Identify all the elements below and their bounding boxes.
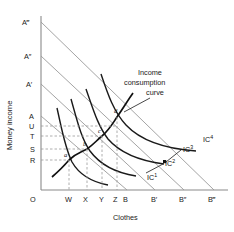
point-label-c: c	[98, 127, 101, 134]
y-axis-title: Money income	[5, 101, 14, 150]
ic4-label-sup: 4	[210, 134, 213, 140]
ic3-label-base: IC	[183, 145, 190, 154]
ic1-label: IC1	[147, 172, 157, 182]
x-tick-y: Y	[99, 195, 104, 204]
ic4-label: IC4	[203, 134, 213, 144]
x-tick-z: Z	[113, 195, 118, 204]
x-tick-b2: B″	[179, 195, 187, 204]
y-tick-s: S	[30, 145, 35, 154]
ic4-label-base: IC	[203, 135, 210, 144]
chart-svg: a b c d A‴ A″ A′ A U T S R O W X Y Z B B…	[0, 0, 234, 232]
annotation-line-1: Income	[138, 68, 162, 77]
tangency-labels-group: a b c d	[64, 107, 118, 158]
y-tick-t: T	[30, 132, 35, 141]
ic1-label-base: IC	[147, 173, 154, 182]
y-tick-a: A	[29, 112, 34, 121]
x-tick-w: W	[65, 195, 72, 204]
x-axis-title: Clothes	[113, 213, 138, 222]
origin-label: O	[30, 195, 36, 204]
x-tick-b3: B‴	[208, 195, 216, 204]
ic-labels-group: IC1 IC2 IC3 IC4	[146, 134, 213, 182]
income-consumption-curve-figure: a b c d A‴ A″ A′ A U T S R O W X Y Z B B…	[0, 0, 234, 232]
budget-line-ab	[41, 116, 127, 190]
x-tick-b: B	[123, 195, 128, 204]
ic3-marker	[163, 160, 166, 163]
x-tick-x: X	[83, 195, 88, 204]
y-tick-a1: A′	[26, 80, 33, 89]
ic2-label: IC2	[165, 158, 175, 168]
annotation-line-3: curve	[146, 88, 164, 97]
budget-lines-group	[41, 22, 214, 190]
y-tick-u: U	[29, 122, 34, 131]
x-tick-labels-group: W X Y Z B B′ B″ B‴	[65, 195, 216, 204]
ic1-label-sup: 1	[154, 172, 157, 178]
ic3-label: IC3	[183, 144, 193, 154]
ic2-label-sup: 2	[172, 158, 175, 164]
y-tick-a3: A‴	[22, 18, 30, 27]
budget-line-a1b1	[41, 84, 155, 190]
annotation-group: Income consumption curve	[124, 68, 165, 112]
ic3-label-sup: 3	[190, 144, 193, 150]
x-tick-b1: B′	[151, 195, 158, 204]
annotation-line-2: consumption	[124, 78, 165, 87]
y-tick-labels-group: A‴ A″ A′ A U T S R	[22, 18, 35, 165]
y-tick-r: R	[30, 156, 35, 165]
y-tick-a2: A″	[24, 52, 32, 61]
axes-group	[41, 16, 228, 190]
